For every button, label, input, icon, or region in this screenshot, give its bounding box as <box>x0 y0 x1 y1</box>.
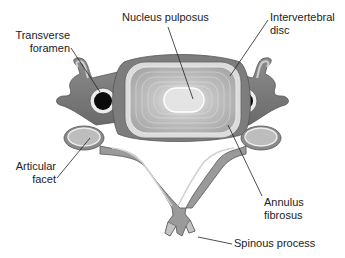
intervertebral-disc <box>125 62 241 138</box>
label-annulus-fibrosus: Annulus fibrosus <box>264 196 304 222</box>
label-articular-facet: Articular facet <box>4 160 56 186</box>
label-articular-facet-line1: Articular <box>4 160 56 173</box>
leader-spinous-process <box>198 237 232 244</box>
label-intervertebral-disc: Intervertebral disc <box>270 11 335 37</box>
label-annulus-fibrosus-line2: fibrosus <box>264 209 304 222</box>
lamina-and-spinous-process <box>100 146 246 236</box>
label-spinous-process: Spinous process <box>234 237 315 250</box>
label-transverse-foramen: Transverse foramen <box>8 29 70 55</box>
label-transverse-foramen-line2: foramen <box>8 42 70 55</box>
vertebra-diagram: Nucleus pulposus Intervertebral disc Tra… <box>0 0 345 258</box>
left-articular-facet <box>64 126 104 150</box>
nucleus-pulposus <box>164 88 204 112</box>
label-intervertebral-disc-line1: Intervertebral <box>270 11 335 24</box>
label-nucleus-pulposus: Nucleus pulposus <box>122 11 209 24</box>
left-transverse-foramen <box>90 88 116 114</box>
right-articular-facet <box>241 126 281 150</box>
label-transverse-foramen-line1: Transverse <box>8 29 70 42</box>
label-articular-facet-line2: facet <box>4 173 56 186</box>
label-annulus-fibrosus-line1: Annulus <box>264 196 304 209</box>
label-intervertebral-disc-line2: disc <box>270 24 335 37</box>
